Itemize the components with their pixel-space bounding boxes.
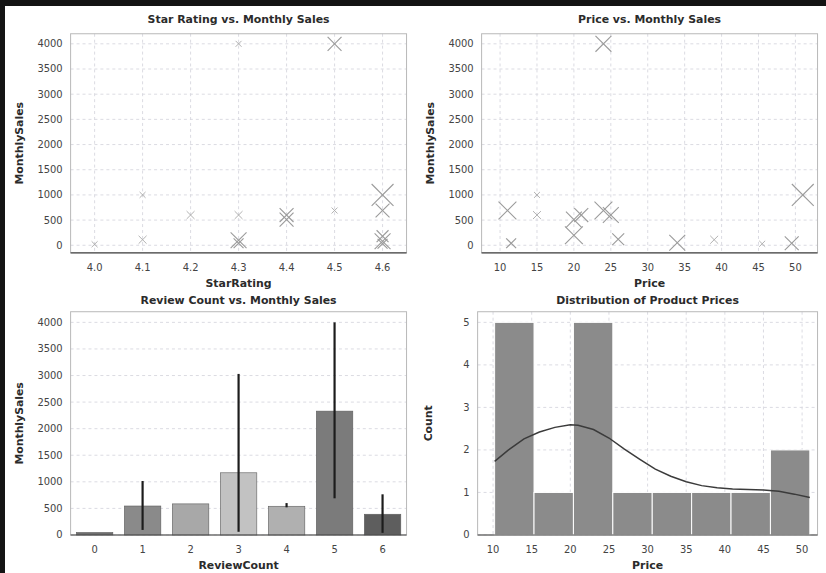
x-axis-ticks: 0123456 bbox=[91, 543, 385, 554]
y-tick-label: 500 bbox=[454, 215, 473, 226]
scatter-marker bbox=[376, 204, 390, 218]
y-tick-label: 500 bbox=[44, 502, 63, 513]
scatter-marker bbox=[669, 235, 685, 251]
y-tick-label: 3000 bbox=[448, 89, 473, 100]
scatter-marker bbox=[612, 233, 624, 245]
x-tick-label: 0 bbox=[91, 543, 97, 554]
y-tick-label: 0 bbox=[463, 529, 469, 540]
y-axis-ticks: 05001000150020002500300035004000 bbox=[37, 316, 62, 540]
x-tick-label: 10 bbox=[486, 543, 499, 554]
histogram-bar bbox=[731, 492, 770, 535]
x-tick-label: 2 bbox=[187, 543, 193, 554]
scatter-marker bbox=[231, 232, 247, 248]
x-tick-label: 6 bbox=[379, 543, 385, 554]
x-axis-label: StarRating bbox=[205, 277, 271, 290]
x-tick-label: 4.6 bbox=[375, 262, 391, 273]
x-tick-label: 15 bbox=[525, 543, 538, 554]
x-axis-ticks: 4.04.14.24.34.44.54.6 bbox=[87, 262, 391, 273]
x-tick-label: 4.4 bbox=[279, 262, 295, 273]
x-tick-label: 1 bbox=[139, 543, 145, 554]
y-tick-label: 3500 bbox=[448, 63, 473, 74]
x-tick-label: 4 bbox=[283, 543, 289, 554]
x-tick-label: 50 bbox=[795, 543, 808, 554]
price-distribution-histogram: Distribution of Product Prices0123451015… bbox=[416, 290, 826, 573]
y-tick-label: 2 bbox=[463, 444, 469, 455]
y-tick-label: 5 bbox=[463, 316, 469, 327]
scatter-marker bbox=[784, 236, 798, 250]
y-axis-label: Count bbox=[421, 405, 434, 441]
y-axis-ticks: 05001000150020002500300035004000 bbox=[37, 38, 62, 250]
chart-title: Price vs. Monthly Sales bbox=[578, 13, 721, 26]
chart-panel-distribution-of-product-prices: Distribution of Product Prices0123451015… bbox=[416, 290, 826, 573]
y-tick-label: 3500 bbox=[37, 63, 62, 74]
y-tick-label: 2000 bbox=[37, 423, 62, 434]
review-count-bar-chart: Review Count vs. Monthly Sales0500100015… bbox=[5, 290, 416, 573]
scatter-marker bbox=[506, 238, 516, 248]
x-tick-label: 25 bbox=[604, 262, 617, 273]
chart-panel-review-count-vs-monthly-sales: Review Count vs. Monthly Sales0500100015… bbox=[5, 290, 416, 573]
chart-panel-star-rating-vs-monthly-sales: Star Rating vs. Monthly Sales05001000150… bbox=[5, 6, 416, 290]
scatter-marker bbox=[574, 208, 588, 222]
y-tick-label: 3500 bbox=[37, 343, 62, 354]
histogram-bars bbox=[494, 322, 809, 535]
x-tick-label: 35 bbox=[679, 543, 692, 554]
x-axis-ticks: 101520253035404550 bbox=[493, 262, 801, 273]
y-tick-label: 4000 bbox=[37, 38, 62, 49]
x-tick-label: 35 bbox=[678, 262, 691, 273]
x-tick-label: 30 bbox=[641, 262, 654, 273]
y-tick-label: 1 bbox=[463, 486, 469, 497]
y-axis-ticks: 05001000150020002500300035004000 bbox=[448, 38, 473, 250]
x-tick-label: 20 bbox=[567, 262, 580, 273]
y-tick-label: 2500 bbox=[37, 114, 62, 125]
y-tick-label: 3000 bbox=[37, 89, 62, 100]
x-tick-label: 5 bbox=[331, 543, 337, 554]
x-axis-label: Price bbox=[634, 277, 665, 290]
scatter-marker bbox=[378, 239, 388, 249]
y-axis-label: MonthlySales bbox=[13, 102, 26, 185]
price-scatter-plot: Price vs. Monthly Sales05001000150020002… bbox=[416, 6, 826, 290]
chart-panel-price-vs-monthly-sales: Price vs. Monthly Sales05001000150020002… bbox=[416, 6, 826, 290]
y-tick-label: 0 bbox=[467, 240, 473, 251]
x-tick-label: 4.1 bbox=[135, 262, 151, 273]
chart-title: Star Rating vs. Monthly Sales bbox=[148, 13, 330, 26]
bar bbox=[268, 506, 304, 535]
y-tick-label: 1000 bbox=[37, 476, 62, 487]
bar bbox=[172, 503, 208, 534]
x-tick-label: 10 bbox=[493, 262, 506, 273]
y-axis-label: MonthlySales bbox=[423, 102, 436, 185]
y-tick-label: 3000 bbox=[37, 370, 62, 381]
scatter-marker bbox=[710, 236, 718, 244]
y-tick-label: 0 bbox=[56, 240, 62, 251]
histogram-bar bbox=[494, 322, 533, 535]
x-tick-label: 4.5 bbox=[327, 262, 343, 273]
y-axis-ticks: 012345 bbox=[463, 316, 469, 540]
histogram-bar bbox=[534, 492, 573, 535]
grid-lines bbox=[71, 34, 407, 253]
histogram-bar bbox=[770, 449, 809, 534]
y-tick-label: 0 bbox=[56, 529, 62, 540]
subplot-grid: Star Rating vs. Monthly Sales05001000150… bbox=[5, 6, 826, 573]
y-tick-label: 1000 bbox=[448, 189, 473, 200]
histogram-bar bbox=[612, 492, 651, 535]
x-tick-label: 45 bbox=[757, 543, 770, 554]
y-tick-label: 2000 bbox=[37, 139, 62, 150]
x-axis-ticks: 101520253035404550 bbox=[486, 543, 808, 554]
x-tick-label: 40 bbox=[715, 262, 728, 273]
scatter-marker bbox=[498, 202, 516, 220]
x-axis-label: ReviewCount bbox=[198, 558, 278, 571]
x-tick-label: 25 bbox=[602, 543, 615, 554]
data-points bbox=[498, 36, 813, 251]
x-tick-label: 50 bbox=[789, 262, 802, 273]
x-tick-label: 40 bbox=[718, 543, 731, 554]
y-tick-label: 1500 bbox=[448, 164, 473, 175]
y-tick-label: 1500 bbox=[37, 164, 62, 175]
x-axis-label: Price bbox=[632, 558, 663, 571]
star-rating-scatter-plot: Star Rating vs. Monthly Sales05001000150… bbox=[5, 6, 416, 290]
y-tick-label: 1000 bbox=[37, 189, 62, 200]
x-tick-label: 4.3 bbox=[231, 262, 247, 273]
x-tick-label: 20 bbox=[564, 543, 577, 554]
y-axis-label: MonthlySales bbox=[13, 382, 26, 464]
x-tick-label: 30 bbox=[641, 543, 654, 554]
y-tick-label: 2500 bbox=[37, 396, 62, 407]
histogram-bar bbox=[652, 492, 691, 535]
